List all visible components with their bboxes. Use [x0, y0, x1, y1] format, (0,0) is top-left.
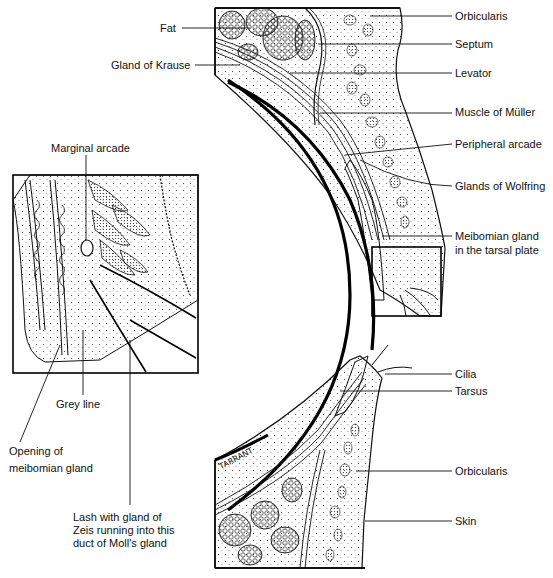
eyelid-illustration: [0, 0, 553, 578]
label-levator: Levator: [455, 66, 492, 80]
label-lash-line1: Lash with gland of: [73, 510, 162, 524]
label-muscle-of-muller: Muscle of Müller: [455, 105, 535, 119]
label-opening-line1: Opening of: [9, 444, 63, 458]
label-grey-line: Grey line: [56, 397, 100, 411]
label-peripheral-arcade: Peripheral arcade: [455, 137, 542, 151]
label-gland-of-krause: Gland of Krause: [111, 58, 191, 72]
label-meibomian-gland-line2: in the tarsal plate: [455, 243, 539, 257]
upper-lid-section: [215, 8, 445, 350]
label-septum: Septum: [455, 37, 493, 51]
label-orbicularis-lower: Orbicularis: [455, 464, 508, 478]
label-orbicularis-upper: Orbicularis: [455, 9, 508, 23]
label-skin: Skin: [455, 514, 476, 528]
margin-inset: [13, 175, 198, 373]
label-tarsus: Tarsus: [455, 384, 487, 398]
label-lash-line2: Zeis running into this: [73, 523, 175, 537]
label-opening-line2: meibomian gland: [9, 461, 93, 475]
label-cilia: Cilia: [455, 367, 476, 381]
label-fat: Fat: [160, 21, 176, 35]
label-marginal-arcade: Marginal arcade: [51, 141, 130, 155]
label-lash-line3: duct of Moll's gland: [73, 536, 167, 550]
label-meibomian-gland-line1: Meibomian gland: [455, 229, 539, 243]
label-glands-of-wolfring: Glands of Wolfring: [455, 179, 545, 193]
